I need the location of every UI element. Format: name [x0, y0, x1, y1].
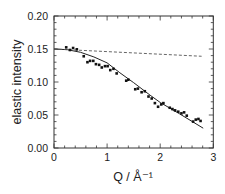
- data-point: [168, 106, 171, 109]
- data-point: [137, 87, 140, 90]
- data-point: [162, 102, 165, 105]
- data-point: [65, 46, 68, 49]
- data-point: [106, 65, 109, 68]
- plot-border: [54, 16, 213, 148]
- y-axis-label: elastic intensity: [10, 39, 24, 125]
- y-tick-label: 0.00: [28, 142, 49, 154]
- y-tick-label: 0.10: [28, 76, 49, 88]
- y-tick-label: 0.20: [28, 10, 49, 22]
- data-point: [95, 63, 98, 66]
- data-point: [82, 55, 85, 58]
- data-point: [150, 97, 153, 100]
- y-tick-label: 0.05: [28, 109, 49, 121]
- y-tick-label: 0.15: [28, 43, 49, 55]
- x-axis-label: Q / Å⁻¹: [113, 169, 153, 184]
- data-point: [185, 114, 188, 117]
- data-point: [144, 90, 147, 93]
- data-point: [194, 118, 197, 121]
- data-point: [192, 120, 195, 123]
- data-point: [154, 102, 157, 105]
- data-point: [72, 47, 75, 50]
- data-point: [171, 108, 174, 111]
- x-tick-label: 1: [104, 151, 110, 163]
- data-point: [86, 61, 89, 64]
- data-point: [92, 60, 95, 63]
- data-point: [157, 105, 160, 108]
- tick-labels: 01230.000.050.100.150.20: [28, 10, 217, 163]
- data-point: [174, 109, 177, 112]
- data-point: [89, 60, 92, 63]
- solid-fit-line: [54, 49, 203, 128]
- data-point: [69, 49, 72, 52]
- data-point: [76, 48, 79, 51]
- data-point: [104, 65, 107, 68]
- elastic-intensity-chart: 01230.000.050.100.150.20 Q / Å⁻¹ elastic…: [0, 0, 225, 194]
- plot-frame: [54, 16, 213, 148]
- data-point: [134, 88, 137, 91]
- data-point: [183, 111, 186, 114]
- data-point: [199, 120, 202, 123]
- data-point: [180, 112, 183, 115]
- data-point: [177, 110, 180, 113]
- x-tick-label: 3: [210, 151, 216, 163]
- data-point: [115, 72, 118, 75]
- x-tick-label: 0: [51, 151, 57, 163]
- data-point: [147, 95, 150, 98]
- data-series: [54, 46, 203, 128]
- data-point: [140, 91, 143, 94]
- axis-ticks: [54, 16, 213, 148]
- data-point: [112, 68, 115, 71]
- x-tick-label: 2: [157, 151, 163, 163]
- data-point: [127, 78, 130, 81]
- data-point: [100, 66, 103, 69]
- data-point: [109, 69, 112, 72]
- data-point: [98, 64, 101, 67]
